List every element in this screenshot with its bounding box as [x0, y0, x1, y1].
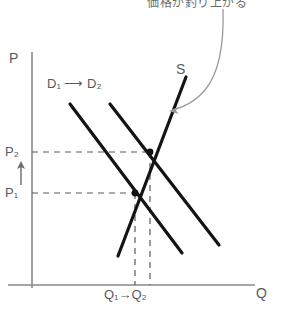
annotation-label: 価格が釣り上がる — [147, 0, 247, 9]
diagram-canvas — [0, 0, 282, 313]
y-axis-label: P — [9, 51, 18, 65]
demand-shift-label: D₁ ⟶ D₂ — [47, 77, 101, 90]
price-p2-label: P₂ — [5, 145, 19, 158]
price-p1-label: P₁ — [5, 186, 18, 199]
supply-curve-label: S — [176, 62, 185, 76]
x-axis-label: Q — [256, 286, 267, 300]
price-rise-arrow — [17, 161, 25, 185]
equilibrium-point-e2 — [147, 149, 154, 156]
quantity-shift-label: Q₁→Q₂ — [104, 288, 147, 301]
equilibrium-point-e1 — [132, 190, 139, 197]
supply-demand-figure: 価格が釣り上がる P Q D₁ ⟶ D₂ S P₂ P₁ Q₁→Q₂ — [0, 0, 282, 313]
supply-curve — [118, 77, 186, 256]
demand-curve-d2 — [110, 104, 219, 245]
